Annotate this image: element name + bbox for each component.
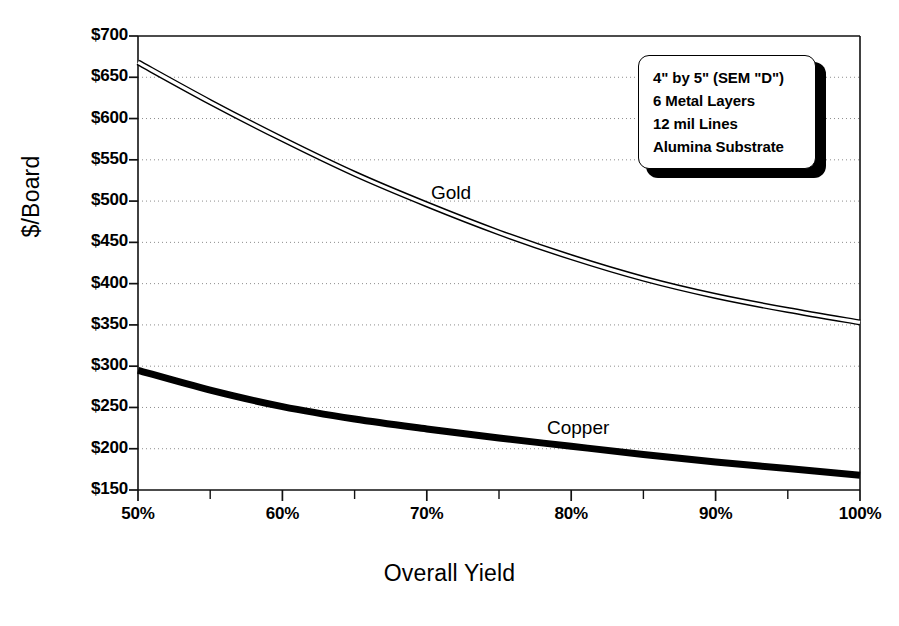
annotation-line: 6 Metal Layers [653,89,815,112]
annotation-line: 4" by 5" (SEM "D") [653,66,815,89]
chart-figure: $700$650$600$550$500$450$400$350$300$250… [0,0,899,626]
x-axis-tick-label: 50% [98,504,178,524]
series-label-copper: Copper [547,417,609,439]
series-label-gold: Gold [431,182,471,204]
x-axis-tick-label: 60% [242,504,322,524]
x-axis-tick-label: 70% [387,504,467,524]
annotation-box: 4" by 5" (SEM "D") 6 Metal Layers 12 mil… [638,55,816,169]
x-axis-title: Overall Yield [0,560,899,587]
x-axis-tick-label: 80% [531,504,611,524]
y-axis-title: $/Board [18,122,45,272]
x-axis-tick-label: 90% [676,504,756,524]
annotation-line: 12 mil Lines [653,112,815,135]
x-axis-tick-label: 100% [820,504,899,524]
annotation-line: Alumina Substrate [653,135,815,158]
